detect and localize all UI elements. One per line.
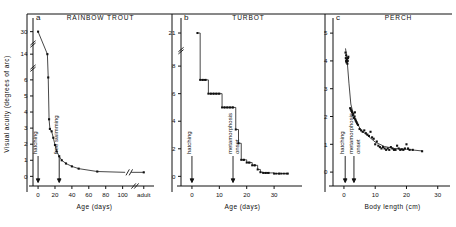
- panel-c-data-point: [354, 115, 356, 117]
- panel-b-data-point: [209, 93, 211, 95]
- panel-c-y-ticklabel-1: 1: [324, 141, 328, 148]
- panel-b-annotation-arrowhead: [231, 179, 235, 183]
- panel-c-data-point: [409, 149, 411, 151]
- panel-b-y-ticklabel-8: 8: [172, 62, 176, 69]
- panel-b-data-point: [259, 171, 261, 173]
- panel-c-y-ticklabel-4: 4: [324, 57, 328, 64]
- panel-b-data-point: [201, 79, 203, 81]
- panel-b-x-ticklabel-20: 20: [243, 191, 250, 198]
- panel-a-x-axis-title: Age (days): [77, 203, 113, 211]
- panel-b-data-point: [283, 173, 285, 175]
- panel-b-y-ticklabel-6: 6: [172, 90, 176, 97]
- panel-c-data-point: [345, 54, 347, 56]
- panel-b-data-point: [218, 93, 220, 95]
- panel-b-data-point: [242, 159, 244, 161]
- panel-b-data-point: [212, 93, 214, 95]
- panel-a-y-ticklabel-14: 14: [21, 50, 28, 57]
- panel-c-data-point: [421, 150, 423, 152]
- panel-b-annotation-arrowhead: [190, 179, 194, 183]
- panel-a-data-point: [47, 76, 49, 78]
- panel-c-annotation-label: metamorphosis: [348, 113, 354, 154]
- panel-c-y-ticklabel-5: 5: [324, 29, 328, 36]
- panel-c-letter: c: [336, 13, 340, 22]
- panel-a-y-ticklabel-3: 3: [24, 124, 28, 131]
- panel-c-data-point: [368, 135, 370, 137]
- panel-b-title: TURBOT: [232, 14, 265, 21]
- panel-b-data-point: [215, 93, 217, 95]
- panel-b-data-point: [285, 173, 287, 175]
- panel-c-data-point: [374, 143, 376, 145]
- panel-a-y-ticklabel-2: 2: [24, 140, 28, 147]
- panel-c-annotation-label: hatching: [339, 131, 345, 154]
- panel-b-data-point: [199, 79, 201, 81]
- panel-b-annotation-label: metamorphosis: [227, 113, 233, 154]
- panel-c-annotation-arrowhead: [343, 179, 347, 183]
- panel-a-data-point: [46, 53, 48, 55]
- panel-b-data-point: [246, 162, 248, 164]
- panel-b-data-point: [281, 173, 283, 175]
- panel-a-y-ticklabel-30: 30: [21, 28, 28, 35]
- panel-b-data-point: [226, 107, 228, 109]
- panel-b-data-point: [275, 173, 277, 175]
- panel-a-annotation-arrowhead: [57, 179, 61, 183]
- panel-b-y-ticklabel-4: 4: [172, 117, 176, 124]
- panel-c-data-point: [373, 138, 375, 140]
- panel-b-data-point: [264, 172, 266, 174]
- panel-a-y-ticklabel-1: 1: [24, 156, 28, 163]
- panel-a-annotation-label: free swimming: [53, 115, 59, 154]
- panel-c-data-point: [404, 147, 406, 149]
- panel-a-annotation-arrowhead: [36, 179, 40, 183]
- panel-c-data-point: [394, 149, 396, 151]
- panel-a-x-ticklabel-40: 40: [68, 191, 75, 198]
- panel-c-annotation-arrowhead: [352, 179, 356, 183]
- panel-a-x-ticklabel-0: 0: [36, 191, 40, 198]
- panel-b-data-point: [221, 106, 223, 108]
- panel-a-data-point: [78, 168, 80, 170]
- panel-b-data-point: [231, 107, 233, 109]
- panel-c-data-point: [357, 124, 359, 126]
- multi-panel-acuity-chart: 01234561430020406080100adultAge (days)aR…: [0, 0, 456, 227]
- panel-b-x-axis-title: Age (days): [225, 203, 261, 211]
- panel-b-data-point: [223, 107, 225, 109]
- panel-b-data-point: [235, 128, 237, 130]
- panel-b-data-point: [257, 168, 259, 170]
- panel-b-data-point: [262, 172, 264, 174]
- panel-a-data-point: [96, 170, 98, 172]
- panel-c-x-ticklabel-0: 0: [342, 191, 346, 198]
- panel-c-data-point: [354, 111, 356, 113]
- figure-container: 01234561430020406080100adultAge (days)aR…: [0, 0, 456, 227]
- panel-c-data-point: [347, 60, 349, 62]
- panel-b-data-point: [278, 173, 280, 175]
- panel-a-letter: a: [36, 13, 41, 22]
- panel-b-annotation-label: hatching: [186, 131, 192, 154]
- panel-b-x-ticklabel-0: 0: [190, 191, 194, 198]
- panel-a-line: [38, 32, 97, 172]
- panel-b-data-point: [273, 173, 275, 175]
- panel-c-x-ticklabel-20: 20: [403, 191, 410, 198]
- panel-a-data-point: [61, 159, 63, 161]
- panel-b-step-line: [197, 33, 287, 174]
- panel-b-data-point: [253, 164, 255, 166]
- panel-a-y-ticklabel-0: 0: [24, 173, 28, 180]
- panel-c-data-point: [388, 149, 390, 151]
- panel-a-x-ticklabel-100: 100: [117, 191, 128, 198]
- panel-c-data-point: [344, 52, 346, 54]
- panel-a-x-ticklabel-60: 60: [85, 191, 92, 198]
- panel-a-curve-break: [126, 169, 129, 175]
- panel-b-annotation-label: onset: [234, 139, 240, 154]
- panel-b-y-ticklabel-0: 0: [172, 173, 176, 180]
- panel-c-data-point: [363, 129, 365, 131]
- panel-a-annotation-label: hatching: [32, 131, 38, 154]
- panel-c-annotation-label: onset: [355, 139, 361, 154]
- panel-c-x-ticklabel-30: 30: [434, 191, 441, 198]
- panel-c-data-point: [396, 145, 398, 147]
- panel-a-data-point: [49, 128, 51, 130]
- panel-c-data-point: [347, 56, 349, 58]
- panel-c-fit-line: [346, 48, 423, 151]
- panel-a-x-ticklabel-20: 20: [52, 191, 59, 198]
- panel-b-data-point: [267, 172, 269, 174]
- panel-b-data-point: [229, 107, 231, 109]
- panel-b-data-point: [251, 164, 253, 166]
- panel-a-x-ticklabel-adult: adult: [137, 191, 151, 198]
- panel-a-data-point: [71, 165, 73, 167]
